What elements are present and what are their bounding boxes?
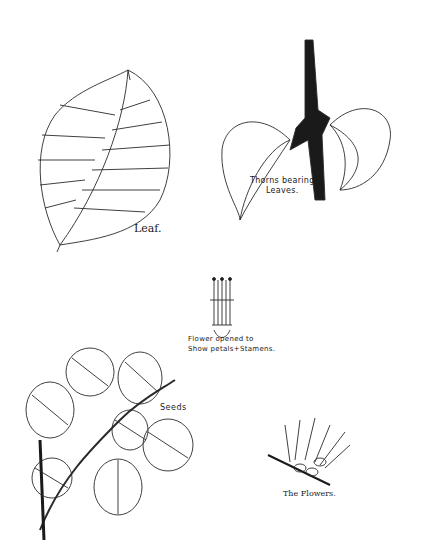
flower-label-line-1: Flower opened to [188,334,275,344]
flower-opened-drawing [210,278,234,338]
flower-opened-label: Flower opened to Show petals+Stamens. [188,334,275,354]
seeds-label: Seeds [160,403,187,413]
flowers-drawing [268,418,350,485]
botanical-drawings [0,0,422,559]
botanical-plate: Leaf. Thorns bearing Leaves. Flower open… [0,0,422,559]
thorns-label-line-1: Thorns bearing [250,176,315,186]
flower-label-line-2: Show petals+Stamens. [188,344,275,354]
leaf-label: Leaf. [134,224,162,234]
thorns-label-line-2: Leaves. [250,186,315,196]
thorns-label: Thorns bearing Leaves. [250,176,315,196]
flowers-label: The Flowers. [283,489,336,499]
seeds-drawing [26,348,193,540]
